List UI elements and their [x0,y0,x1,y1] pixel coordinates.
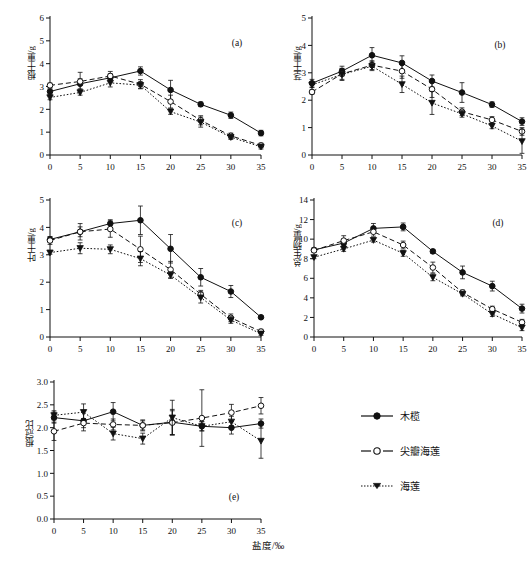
svg-text:5: 5 [81,526,86,536]
svg-text:1: 1 [40,305,45,315]
svg-text:30: 30 [488,344,498,354]
svg-text:4: 4 [40,223,45,233]
svg-text:15: 15 [136,344,146,354]
svg-text:20: 20 [168,526,178,536]
svg-text:25: 25 [458,344,468,354]
panel-a: 根干重/g 012345605101520253035(a) [22,8,267,183]
svg-text:4: 4 [304,293,309,303]
panel-e-ylabel: 根冠比 [22,420,35,447]
svg-text:14: 14 [299,195,309,205]
panel-d-plot: 0246810121405101520253035(d) [288,190,528,365]
svg-text:25: 25 [196,344,206,354]
svg-text:(d): (d) [492,218,503,229]
svg-text:30: 30 [226,162,236,172]
svg-text:35: 35 [257,526,267,536]
panel-b-ylabel: 茎干重/g [290,46,303,80]
svg-text:2: 2 [40,277,45,287]
svg-text:6: 6 [40,13,45,23]
svg-text:5: 5 [40,195,45,205]
svg-text:0: 0 [302,150,307,160]
svg-text:(c): (c) [232,218,243,229]
svg-text:5: 5 [78,162,83,172]
svg-text:10: 10 [368,162,378,172]
svg-text:5: 5 [302,13,307,23]
svg-text:3: 3 [40,82,45,92]
svg-text:0: 0 [310,162,315,172]
panel-a-ylabel: 根干重/g [24,46,37,80]
panel-a-plot: 012345605101520253035(a) [22,8,267,183]
panel-b-plot: 01234505101520253035(b) [288,8,528,183]
svg-text:20: 20 [166,162,176,172]
svg-text:0: 0 [304,332,309,342]
svg-text:5: 5 [340,162,345,172]
svg-text:20: 20 [428,162,438,172]
svg-text:0: 0 [52,526,57,536]
svg-text:2: 2 [302,95,307,105]
svg-text:0: 0 [48,344,53,354]
svg-text:0: 0 [40,150,45,160]
panel-c-ylabel: 叶干重/g [24,228,37,262]
svg-text:25: 25 [197,526,207,536]
svg-text:10: 10 [109,526,119,536]
svg-text:0.0: 0.0 [37,514,49,524]
svg-text:30: 30 [226,344,236,354]
svg-text:15: 15 [399,344,409,354]
svg-text:35: 35 [257,162,267,172]
svg-text:35: 35 [518,344,528,354]
svg-text:35: 35 [257,344,267,354]
svg-text:15: 15 [136,162,146,172]
legend-label-0: 木榄 [400,408,420,423]
svg-text:25: 25 [458,162,468,172]
svg-text:(a): (a) [232,38,243,49]
svg-text:5: 5 [78,344,83,354]
svg-text:8: 8 [304,254,309,264]
svg-text:2: 2 [304,313,309,323]
panel-d: 总生物量/g 0246810121405101520253035(d) [288,190,528,365]
x-axis-title: 盐度/‰ [252,538,284,552]
svg-text:30: 30 [227,526,237,536]
legend-item-1: 尖瓣海莲 [360,433,520,468]
figure-root: 根干重/g 012345605101520253035(a) 茎干重/g 012… [0,0,532,566]
svg-text:0: 0 [312,344,317,354]
svg-text:30: 30 [488,162,498,172]
svg-text:15: 15 [138,526,148,536]
svg-text:0.5: 0.5 [37,491,49,501]
panel-b: 茎干重/g 01234505101520253035(b) [288,8,528,183]
svg-text:1: 1 [40,127,45,137]
svg-text:5: 5 [341,344,346,354]
svg-text:15: 15 [398,162,408,172]
svg-text:20: 20 [166,344,176,354]
svg-text:(e): (e) [229,492,240,503]
svg-text:25: 25 [196,162,206,172]
legend-symbol-open-circle [360,445,394,457]
svg-text:0: 0 [40,332,45,342]
svg-text:5: 5 [40,36,45,46]
svg-text:(b): (b) [494,40,505,51]
svg-text:2.5: 2.5 [37,400,49,410]
legend: 木榄 尖瓣海莲 海莲 [360,398,520,503]
panel-e-plot: 0.00.51.01.52.02.53.005101520253035(e) [22,372,267,547]
svg-text:10: 10 [106,162,116,172]
panel-d-ylabel: 总生物量/g [290,224,303,267]
svg-text:3.0: 3.0 [37,377,49,387]
svg-text:4: 4 [40,59,45,69]
legend-symbol-solid-circle [360,410,394,422]
svg-text:1.5: 1.5 [37,446,49,456]
panel-c-plot: 01234505101520253035(c) [22,190,267,365]
svg-text:20: 20 [428,344,438,354]
svg-text:1.0: 1.0 [37,469,49,479]
legend-label-1: 尖瓣海莲 [400,443,440,458]
panel-e: 根冠比 0.00.51.01.52.02.53.005101520253035(… [22,372,267,547]
legend-item-0: 木榄 [360,398,520,433]
svg-text:2.0: 2.0 [37,423,49,433]
svg-text:3: 3 [40,250,45,260]
svg-text:35: 35 [518,162,528,172]
legend-symbol-filled-triangle [360,480,394,492]
svg-text:6: 6 [304,273,309,283]
legend-item-2: 海莲 [360,468,520,503]
panel-c: 叶干重/g 01234505101520253035(c) [22,190,267,365]
svg-text:0: 0 [48,162,53,172]
svg-text:1: 1 [302,123,307,133]
legend-label-2: 海莲 [400,478,420,493]
svg-text:10: 10 [369,344,379,354]
